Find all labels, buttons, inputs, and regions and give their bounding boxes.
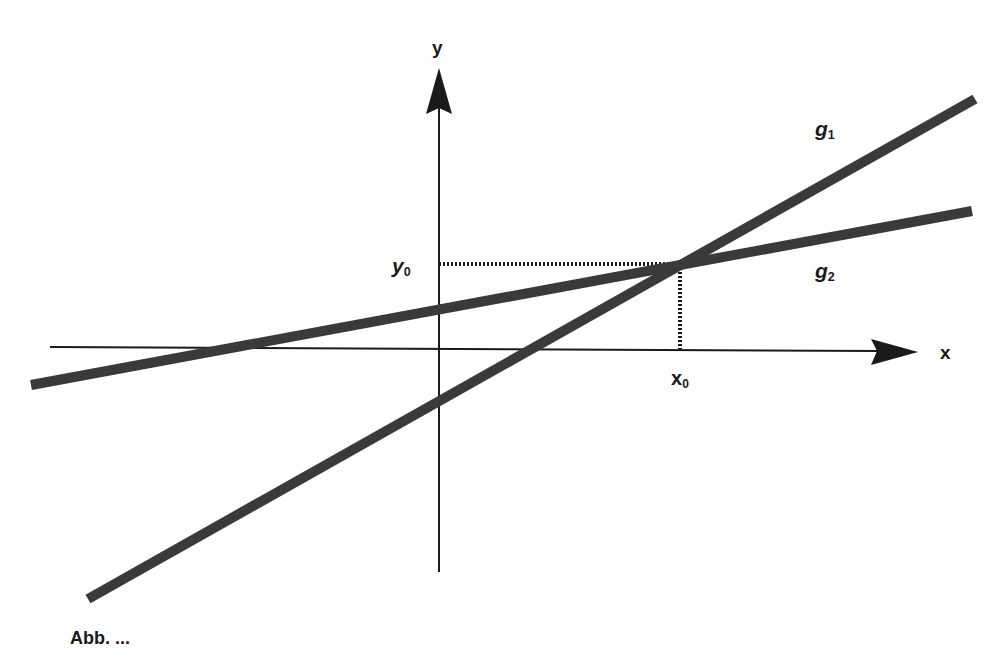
x-axis-arrowhead	[871, 339, 918, 365]
g2-label: g2	[815, 260, 835, 284]
x0-label: x0	[671, 368, 689, 390]
x-axis-label: x	[940, 343, 951, 362]
y0-label: y0	[392, 255, 411, 279]
g1-label: g1	[815, 118, 835, 142]
y-axis-arrowhead	[426, 68, 452, 114]
line-g2	[31, 211, 972, 385]
y-axis-label: y	[432, 38, 443, 57]
figure-caption: Abb. ...	[70, 628, 130, 648]
x-axis	[50, 347, 880, 351]
